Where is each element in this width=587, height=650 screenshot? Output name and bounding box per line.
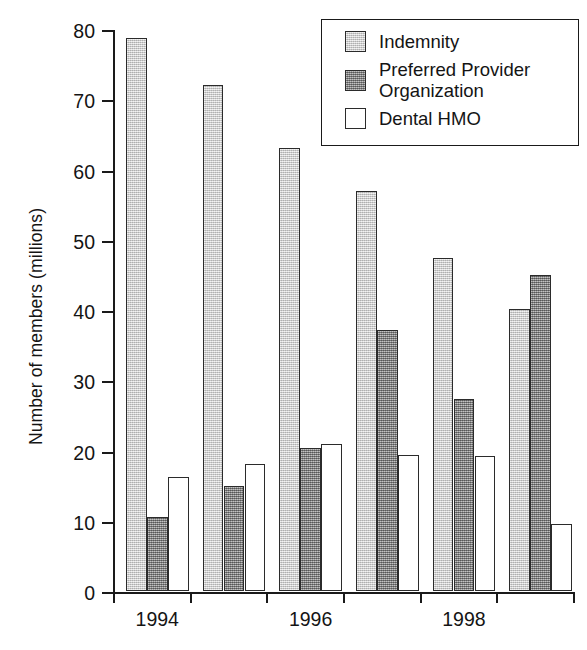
bar-1997-series-1 xyxy=(377,330,398,591)
bar-chart: Number of members (millions) 01020304050… xyxy=(0,0,587,650)
bar-1997-series-0 xyxy=(356,191,377,591)
x-tick-2 xyxy=(266,592,268,603)
y-tick-10: 10 xyxy=(102,522,113,524)
y-axis-line xyxy=(113,30,115,594)
y-axis-title: Number of members (millions) xyxy=(26,117,47,537)
y-tick-label-10: 10 xyxy=(73,511,95,534)
y-tick-label-60: 60 xyxy=(73,160,95,183)
bar-1996-series-1 xyxy=(300,448,321,591)
x-tick-1 xyxy=(190,592,192,603)
y-tick-20: 20 xyxy=(102,452,113,454)
y-tick-label-80: 80 xyxy=(73,20,95,43)
bar-1994-series-2 xyxy=(168,477,189,591)
x-tick-4 xyxy=(420,592,422,603)
legend-item-1: Preferred Provider Organization xyxy=(345,59,578,101)
legend-swatch-icon-1 xyxy=(345,70,366,91)
x-tick-label-1998: 1998 xyxy=(442,608,485,631)
x-tick-0 xyxy=(113,592,115,603)
bar-1995-series-0 xyxy=(203,85,224,591)
legend-label-1: Preferred Provider Organization xyxy=(379,59,530,101)
legend: IndemnityPreferred Provider Organization… xyxy=(321,19,579,146)
bar-1998-series-0 xyxy=(433,258,454,591)
legend-swatch-icon-2 xyxy=(345,108,366,129)
legend-item-0: Indemnity xyxy=(345,31,578,52)
y-tick-label-40: 40 xyxy=(73,301,95,324)
bar-1994-series-1 xyxy=(147,517,168,591)
y-tick-30: 30 xyxy=(102,381,113,383)
bar-1999-series-2 xyxy=(551,524,572,591)
y-tick-label-70: 70 xyxy=(73,90,95,113)
y-tick-0: 0 xyxy=(102,592,113,594)
legend-label-0: Indemnity xyxy=(379,31,459,52)
y-tick-70: 70 xyxy=(102,100,113,102)
bar-1998-series-1 xyxy=(454,399,475,591)
bar-1995-series-2 xyxy=(245,464,266,591)
x-tick-label-1994: 1994 xyxy=(136,608,179,631)
bar-1995-series-1 xyxy=(224,486,245,591)
y-tick-40: 40 xyxy=(102,311,113,313)
bar-1999-series-1 xyxy=(530,275,551,591)
y-tick-label-30: 30 xyxy=(73,371,95,394)
x-tick-6 xyxy=(573,592,575,603)
legend-swatch-icon-0 xyxy=(345,31,366,52)
y-tick-label-20: 20 xyxy=(73,441,95,464)
y-tick-50: 50 xyxy=(102,241,113,243)
y-tick-label-0: 0 xyxy=(84,582,95,605)
bar-1996-series-0 xyxy=(279,148,300,591)
bar-1999-series-0 xyxy=(509,309,530,591)
x-tick-5 xyxy=(496,592,498,603)
y-tick-80: 80 xyxy=(102,30,113,32)
y-tick-60: 60 xyxy=(102,171,113,173)
x-tick-label-1996: 1996 xyxy=(289,608,332,631)
x-tick-3 xyxy=(343,592,345,603)
legend-label-2: Dental HMO xyxy=(379,108,481,129)
bar-1998-series-2 xyxy=(475,456,496,591)
bar-1996-series-2 xyxy=(321,444,342,591)
bar-1994-series-0 xyxy=(126,38,147,591)
legend-item-2: Dental HMO xyxy=(345,108,578,129)
y-tick-label-50: 50 xyxy=(73,230,95,253)
bar-1997-series-2 xyxy=(398,455,419,591)
